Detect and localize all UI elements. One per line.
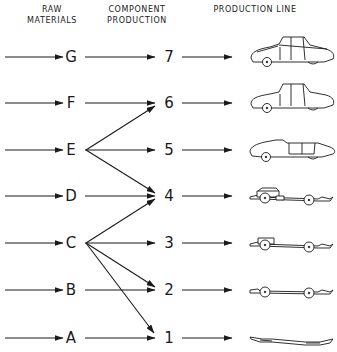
raw-material-B: B xyxy=(66,283,76,298)
arrow-C-to-1 xyxy=(86,243,154,333)
chassis-with-engine-frame-icon xyxy=(250,188,333,205)
arrow-E-to-6 xyxy=(86,106,155,150)
bare-chassis-frame-icon xyxy=(250,337,333,345)
arrow-E-to-4 xyxy=(86,150,155,193)
component-1: 1 xyxy=(164,331,174,346)
input-arrows xyxy=(5,57,63,338)
complete-car-icon xyxy=(251,37,334,67)
car-body-on-chassis-icon xyxy=(250,140,335,162)
raw-material-A: A xyxy=(66,331,76,346)
chassis-with-wheels-icon xyxy=(250,287,333,298)
arrow-C-to-2 xyxy=(86,243,155,287)
production-arrows xyxy=(182,57,232,338)
component-5: 5 xyxy=(164,143,174,158)
arrow-C-to-4 xyxy=(86,199,155,243)
raw-material-C: C xyxy=(66,236,76,251)
raw-material-E: E xyxy=(66,143,75,158)
raw-material-F: F xyxy=(67,96,76,111)
component-4: 4 xyxy=(164,189,174,204)
component-6: 6 xyxy=(164,96,174,111)
component-arrows xyxy=(85,57,155,338)
car-without-front-panels-icon xyxy=(251,84,334,113)
raw-material-G: G xyxy=(65,50,77,65)
component-2: 2 xyxy=(164,283,174,298)
chassis-with-frame-icon xyxy=(250,238,333,252)
component-3: 3 xyxy=(164,236,174,251)
raw-material-D: D xyxy=(65,189,77,204)
component-7: 7 xyxy=(164,50,174,65)
